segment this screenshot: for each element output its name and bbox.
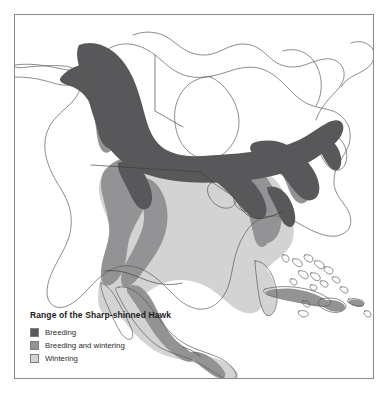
legend-swatch-breeding — [30, 328, 39, 337]
bahamas-island — [324, 267, 333, 274]
bahamas-island — [310, 285, 317, 291]
bahamas-island — [290, 279, 297, 285]
border-canada-provinces — [155, 55, 183, 127]
legend-item-wintering: Wintering — [30, 352, 220, 364]
coastline-arctic-islands — [133, 32, 344, 120]
legend-swatch-wintering — [30, 354, 39, 363]
legend-item-breeding: Breeding — [30, 326, 220, 338]
coastline-baffin — [283, 50, 321, 106]
bahamas-island — [332, 277, 340, 283]
bahamas-island — [304, 255, 313, 262]
bahamas-island — [292, 259, 302, 267]
coastline-greenland-edge — [341, 42, 374, 87]
range-map-figure: Range of the Sharp-shinned Hawk Breeding… — [0, 0, 392, 397]
map-frame: Range of the Sharp-shinned Hawk Breeding… — [14, 14, 374, 379]
legend-label-breeding-and-wintering: Breeding and wintering — [45, 341, 125, 350]
legend-label-wintering: Wintering — [45, 354, 78, 363]
caribbean-range-layer — [266, 289, 364, 312]
legend-item-breeding-and-wintering: Breeding and wintering — [30, 339, 220, 351]
bahamas-island — [314, 261, 324, 269]
coastline-jamaica — [298, 311, 308, 317]
coastline-hudson-bay — [175, 77, 239, 159]
coastline-lesser-antilles — [364, 311, 371, 317]
bahamas-island — [340, 287, 348, 293]
bahamas-island — [298, 271, 308, 279]
map-legend: Range of the Sharp-shinned Hawk Breeding… — [30, 310, 220, 365]
legend-title: Range of the Sharp-shinned Hawk — [30, 310, 220, 320]
bahamas-island — [320, 281, 328, 287]
bahamas-island — [282, 255, 289, 262]
legend-swatch-breeding-and-wintering — [30, 341, 39, 350]
bahamas-island — [310, 273, 320, 281]
legend-label-breeding: Breeding — [45, 328, 76, 337]
